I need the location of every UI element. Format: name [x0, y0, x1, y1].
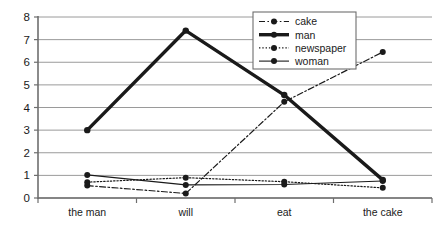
- y-axis-tick-label: 5: [24, 79, 30, 91]
- data-point: [183, 175, 189, 181]
- y-axis-tick-label: 4: [24, 102, 31, 114]
- legend-label-newspaper[interactable]: newspaper: [295, 42, 347, 54]
- data-point: [281, 181, 287, 187]
- legend-marker-man: [271, 32, 277, 38]
- line-chart: 012345678 the manwilleatthe cake cakeman…: [0, 0, 446, 236]
- data-point: [281, 92, 287, 98]
- x-axis-category-label: the man: [68, 206, 106, 218]
- y-axis-tick-label: 0: [24, 192, 30, 204]
- data-point: [380, 178, 386, 184]
- chart-legend: cakemannewspaperwoman: [253, 12, 356, 69]
- data-point: [380, 49, 386, 55]
- y-axis-tick-label: 8: [24, 11, 30, 23]
- legend-marker-newspaper: [271, 45, 277, 51]
- y-axis-tick-label: 6: [24, 56, 30, 68]
- data-point: [183, 190, 189, 196]
- y-axis-tick-label: 7: [24, 34, 30, 46]
- y-axis-tick-label: 3: [24, 124, 30, 136]
- data-point: [84, 127, 90, 133]
- legend-label-man[interactable]: man: [295, 29, 316, 41]
- legend-marker-cake: [271, 19, 277, 25]
- data-point: [84, 172, 90, 178]
- y-axis-tick-label: 1: [24, 169, 30, 181]
- data-point: [84, 179, 90, 185]
- x-axis-category-label: eat: [277, 206, 292, 218]
- chart-background: [0, 0, 446, 236]
- legend-label-cake[interactable]: cake: [295, 15, 317, 27]
- x-axis-category-label: the cake: [363, 206, 403, 218]
- y-axis-tick-labels: 012345678: [24, 11, 31, 204]
- legend-label-woman[interactable]: woman: [294, 55, 329, 67]
- data-point: [183, 27, 189, 33]
- chart-canvas: 012345678 the manwilleatthe cake cakeman…: [0, 0, 446, 236]
- x-axis-category-label: will: [177, 206, 193, 218]
- legend-marker-woman: [271, 58, 277, 64]
- data-point: [183, 182, 189, 188]
- y-axis-tick-label: 2: [24, 147, 30, 159]
- data-point: [281, 99, 287, 105]
- data-point: [380, 185, 386, 191]
